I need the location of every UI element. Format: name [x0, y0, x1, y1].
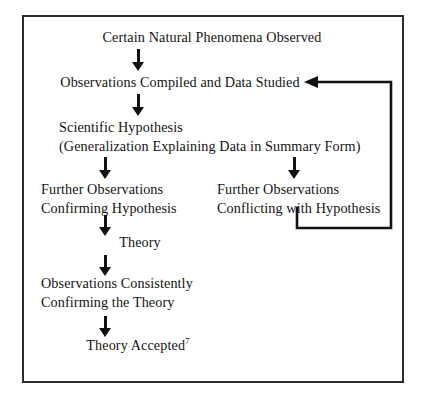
node-theory-accepted-line1: Theory Accepted7 [58, 336, 218, 355]
footnote-marker: 7 [185, 336, 190, 346]
arrow-head [132, 107, 144, 116]
node-observations-consistently: Observations Consistently Confirming the… [41, 274, 241, 312]
node-theory-line1: Theory [75, 233, 205, 252]
arrow-head [99, 328, 111, 337]
node-further-observations-conflicting-line2: Conflicting with Hypothesis [217, 199, 397, 218]
node-theory: Theory [75, 233, 205, 252]
arrow-head [99, 170, 111, 179]
arrow-head [288, 170, 300, 179]
node-observations-compiled: Observations Compiled and Data Studied [50, 73, 310, 92]
node-scientific-hypothesis-line2: (Generalization Explaining Data in Summa… [59, 137, 379, 156]
node-phenomena-line1: Certain Natural Phenomena Observed [62, 28, 362, 47]
node-further-observations-confirming: Further Observations Confirming Hypothes… [41, 180, 201, 218]
node-phenomena: Certain Natural Phenomena Observed [62, 28, 362, 47]
flowchart-figure: Certain Natural Phenomena Observed Obser… [0, 0, 427, 403]
arrow-head [132, 62, 144, 71]
arrow-shaft [293, 157, 296, 171]
arrow-head [99, 227, 111, 236]
arrow-shaft [137, 94, 140, 108]
node-observations-consistently-line1: Observations Consistently [41, 274, 241, 293]
node-further-observations-confirming-line1: Further Observations [41, 180, 201, 199]
arrow-shaft [137, 49, 140, 63]
node-theory-accepted-label: Theory Accepted [86, 337, 185, 353]
node-further-observations-confirming-line2: Confirming Hypothesis [41, 199, 201, 218]
arrow-head [99, 267, 111, 276]
node-scientific-hypothesis: Scientific Hypothesis (Generalization Ex… [59, 118, 379, 156]
node-scientific-hypothesis-line1: Scientific Hypothesis [59, 118, 379, 137]
arrow-shaft [104, 157, 107, 171]
node-further-observations-conflicting-line1: Further Observations [217, 180, 397, 199]
node-observations-consistently-line2: Confirming the Theory [41, 293, 241, 312]
node-theory-accepted: Theory Accepted7 [58, 336, 218, 355]
node-further-observations-conflicting: Further Observations Conflicting with Hy… [217, 180, 397, 218]
node-observations-compiled-line1: Observations Compiled and Data Studied [50, 73, 310, 92]
